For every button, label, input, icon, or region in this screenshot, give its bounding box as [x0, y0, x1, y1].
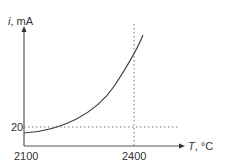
x-tick-2400: 2400 [122, 151, 146, 162]
y-tick-20: 20 [11, 122, 23, 133]
current-temperature-curve [24, 35, 143, 133]
x-axis-unit: , °C [195, 140, 213, 152]
y-axis-unit: , mA [10, 15, 33, 27]
x-tick-2100: 2100 [14, 151, 38, 162]
x-axis-label: T, °C [188, 141, 213, 152]
x-axis-arrow-icon [179, 144, 185, 149]
y-axis-label: i, mA [8, 16, 33, 27]
x-axis-variable: T [188, 140, 195, 152]
